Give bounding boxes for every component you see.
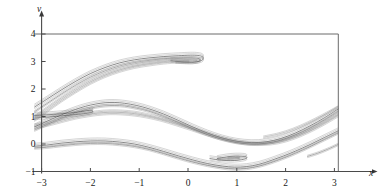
curve-lower-cusp-outer-companion-2: [210, 153, 247, 158]
curve-right-extra-upper: [264, 105, 342, 137]
x-tick-label-3: 3: [332, 178, 337, 188]
y-tick-label--1: −1: [25, 167, 35, 177]
x-tick-label--1: −1: [134, 178, 144, 188]
axes: [32, 16, 372, 174]
curve-bundle: [34, 52, 341, 170]
y-tick-label-2: 2: [31, 84, 36, 94]
y-tick-label-0: 0: [31, 139, 36, 149]
y-tick-label-4: 4: [31, 29, 36, 39]
plot-canvas: −3−2−10123−101234 x v: [0, 0, 384, 196]
x-tick-label--3: −3: [37, 178, 47, 188]
x-tick-label-1: 1: [234, 178, 239, 188]
curve-lower-band-second: [34, 131, 341, 169]
x-axis-label: x: [368, 168, 374, 178]
x-tick-label-2: 2: [283, 178, 288, 188]
phase-portrait-figure: −3−2−10123−101234 x v: [0, 0, 384, 196]
y-tick-label-3: 3: [31, 57, 36, 67]
y-axis-label: v: [37, 4, 42, 14]
curve-mid-band-top-companion-1: [34, 101, 341, 141]
curve-mid-band-top: [34, 102, 341, 142]
x-tick-label--2: −2: [85, 178, 95, 188]
y-tick-label-1: 1: [31, 112, 36, 122]
tick-labels: −3−2−10123−101234: [25, 29, 337, 187]
curve-upper-band-inner-companion-0: [34, 59, 200, 113]
x-tick-label-0: 0: [186, 178, 191, 188]
tick-marks: [41, 34, 334, 172]
